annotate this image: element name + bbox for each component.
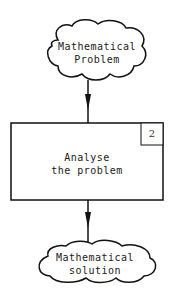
arrowhead-icon: [85, 212, 91, 228]
input-node-line-2: Problem: [47, 53, 147, 66]
process-node-line-2: the problem: [11, 164, 163, 177]
output-node-line-1: Mathematical: [35, 251, 155, 264]
output-node-label: Mathematical solution: [35, 251, 155, 277]
process-number: 2: [141, 123, 163, 145]
process-node-line-1: Analyse: [11, 151, 163, 164]
input-node-label: Mathematical Problem: [47, 40, 147, 66]
process-node-label: Analyse the problem: [11, 151, 163, 177]
input-node-line-1: Mathematical: [47, 40, 147, 53]
arrowhead-icon: [85, 94, 91, 110]
output-node-line-2: solution: [35, 264, 155, 277]
